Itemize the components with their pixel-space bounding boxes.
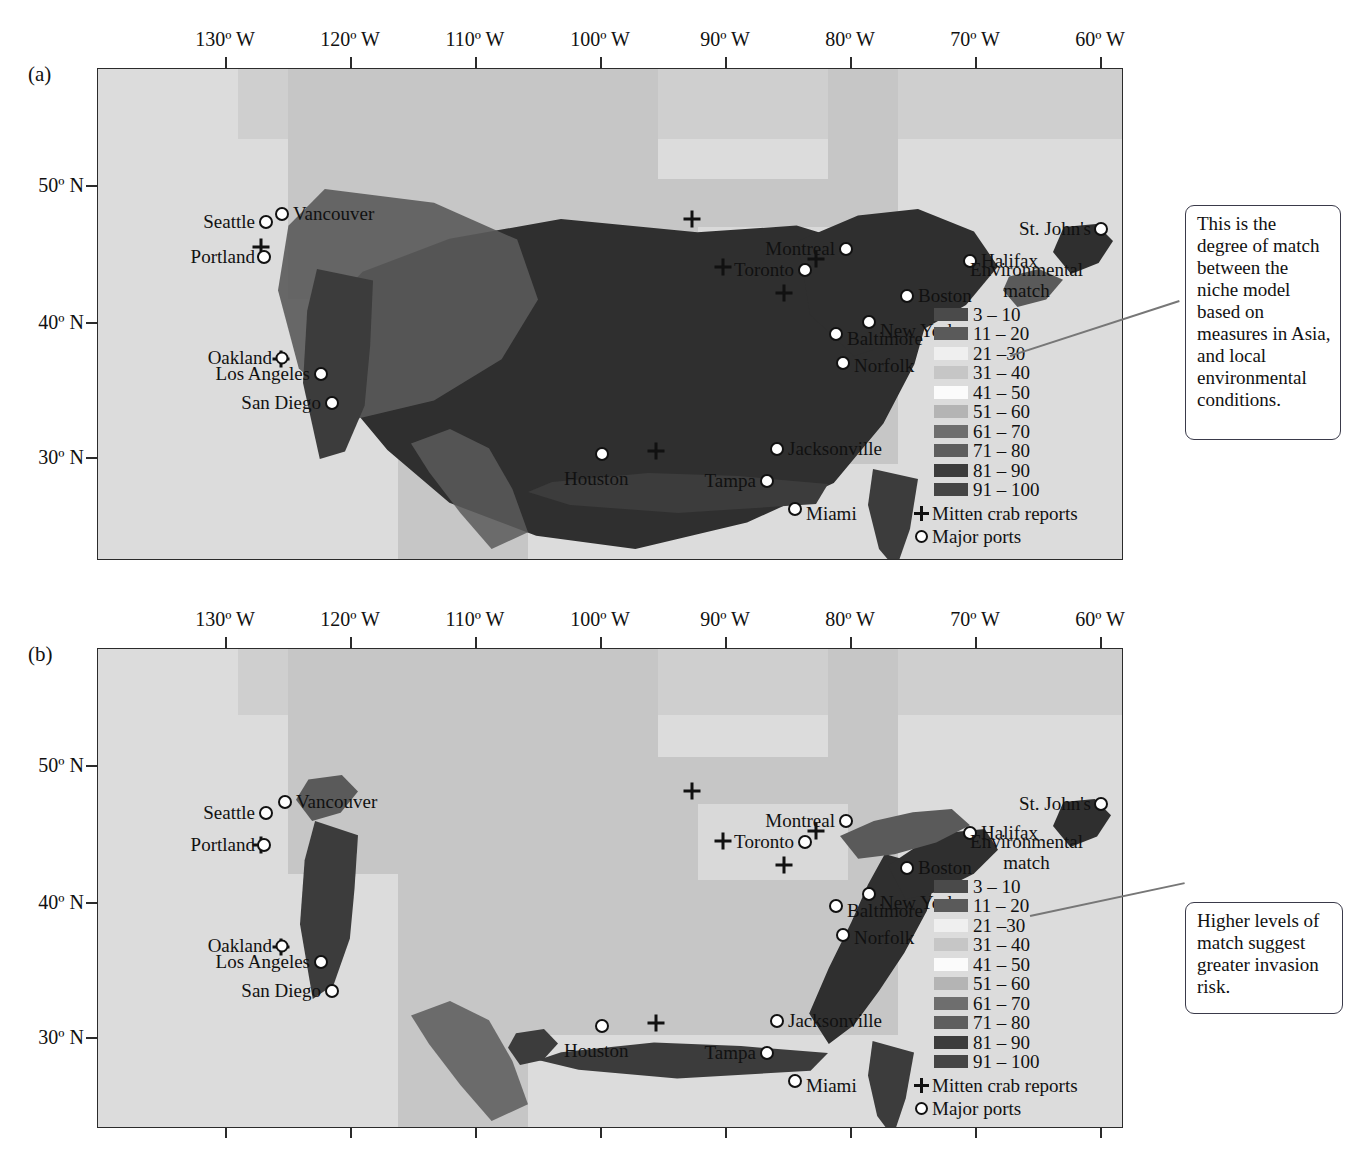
legend-title-line2: match [934,852,1119,873]
legend-label: 51 – 60 [973,402,1030,421]
city-label: St. John's [1019,793,1091,815]
x-tick [225,1127,227,1138]
legend-swatch [934,366,968,379]
circle-icon [910,1102,932,1115]
legend-row: 41 – 50 [934,955,1119,975]
x-tick-label: 90º W [700,28,750,51]
legend-swatch [934,1036,968,1049]
city-label: Los Angeles [216,363,310,385]
legend-swatch [934,958,968,971]
canada-landmass [238,69,1122,139]
legend-symbol-label: Mitten crab reports [932,504,1078,523]
city-marker [836,356,850,370]
callout-b: Higher levels of match suggest greater i… [1185,902,1343,1014]
x-tick-label: 60º W [1075,28,1125,51]
panel-b-y-axis: 50º N 40º N 30º N [84,648,98,1126]
legend-swatch [934,483,968,496]
x-tick [725,637,727,648]
x-tick [975,1127,977,1138]
city-marker [839,814,853,828]
legend-label: 71 – 80 [973,1013,1030,1032]
legend-swatch [934,444,968,457]
x-tick [350,57,352,68]
plus-icon [910,506,932,521]
x-tick [600,1127,602,1138]
legend-title: Environmental match [934,259,1119,302]
legend-symbol-port: Major ports [910,1098,1119,1120]
city-marker [862,887,876,901]
x-tick-label: 100º W [570,608,630,631]
legend-row: 61 – 70 [934,994,1119,1014]
legend-row: 71 – 80 [934,441,1119,461]
x-tick-label: 110º W [446,28,505,51]
legend-row: 11 – 20 [934,324,1119,344]
legend-row: 31 – 40 [934,363,1119,383]
legend-symbol-label: Major ports [932,527,1021,546]
city-marker [788,502,802,516]
legend-label: 61 – 70 [973,994,1030,1013]
panel-b-map-surface: Seattle Vancouver Portland Oakland Los A… [98,649,1122,1127]
y-tick [86,457,97,459]
city-marker [257,838,271,852]
legend-swatch [934,1016,968,1029]
city-marker [314,367,328,381]
legend-label: 81 – 90 [973,1033,1030,1052]
panel-a-map-surface: Seattle Vancouver Portland Oakland Los A… [98,69,1122,559]
legend-swatch [934,938,968,951]
legend-swatch [934,1055,968,1068]
city-marker [788,1074,802,1088]
circle-icon [910,530,932,543]
x-tick [1100,637,1102,648]
city-marker [278,795,292,809]
crab-report-marker [648,443,665,460]
x-tick [850,637,852,648]
city-label: Portland [191,834,255,856]
x-tick [850,57,852,68]
city-marker [259,806,273,820]
city-marker [1094,797,1108,811]
legend-swatch [934,347,968,360]
legend-title-line1: Environmental [934,831,1119,852]
city-label: Tampa [705,1042,756,1064]
city-label: Houston [564,1040,628,1062]
x-tick [600,637,602,648]
city-label: Miami [806,503,857,525]
crab-report-marker [776,285,793,302]
legend-row: 31 – 40 [934,935,1119,955]
x-tick [975,637,977,648]
city-marker [257,250,271,264]
x-tick [1100,1127,1102,1138]
city-marker [798,263,812,277]
x-tick [850,1127,852,1138]
legend-row: 51 – 60 [934,402,1119,422]
city-label: Vancouver [293,203,374,225]
figure-root: (a) 130º W 120º W 110º W 100º W 90º W 80… [0,0,1364,1159]
city-label: Norfolk [854,927,914,949]
legend-title-line2: match [934,280,1119,301]
legend-label: 21 –30 [973,916,1025,935]
city-label: Toronto [734,831,794,853]
city-marker [900,861,914,875]
x-tick [1100,57,1102,68]
panel-b-x-axis-bottom [97,1127,1121,1147]
x-tick [475,57,477,68]
panel-a: (a) 130º W 120º W 110º W 100º W 90º W 80… [0,0,1364,580]
y-tick [86,902,97,904]
legend-label: 3 – 10 [973,877,1021,896]
x-tick [350,1127,352,1138]
x-tick [600,57,602,68]
y-tick-label: 40º N [38,311,84,334]
y-tick-label: 40º N [38,891,84,914]
x-tick-label: 130º W [195,608,255,631]
city-marker [798,835,812,849]
legend-symbol-port: Major ports [910,526,1119,548]
city-label: Houston [564,468,628,490]
city-marker [770,1014,784,1028]
legend-label: 31 – 40 [973,363,1030,382]
city-marker [275,207,289,221]
legend-row: 91 – 100 [934,480,1119,500]
y-tick-label: 50º N [38,174,84,197]
legend-label: 81 – 90 [973,461,1030,480]
city-label: San Diego [241,980,321,1002]
y-tick [86,765,97,767]
